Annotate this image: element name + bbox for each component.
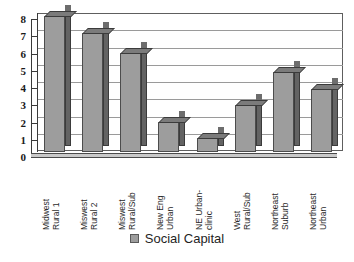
x-axis-category-label: Northeast Urban <box>309 158 354 230</box>
bar <box>82 27 103 152</box>
bar-front-face <box>82 33 103 152</box>
bar-front-face <box>235 105 256 152</box>
bar-top-bevel <box>235 100 268 106</box>
bar-front-face <box>158 122 179 152</box>
bar <box>235 99 256 152</box>
bar-top-bevel <box>311 84 344 90</box>
bar-top-bevel <box>273 67 306 73</box>
bar <box>273 66 294 152</box>
bar-side-face <box>141 47 147 146</box>
bar-front-face <box>197 138 218 152</box>
bar <box>158 116 179 152</box>
bar <box>197 132 218 152</box>
bar-side-face <box>103 27 109 146</box>
bar-top-face <box>179 111 185 117</box>
y-axis-tick-label: 8 <box>4 14 26 25</box>
legend-label: Social Capital <box>145 231 225 246</box>
y-axis-tick-label: 5 <box>4 66 26 77</box>
y-axis-tick-label: 7 <box>4 31 26 42</box>
bar <box>120 47 141 152</box>
bar-top-face <box>294 61 300 67</box>
bar-series-social-capital <box>31 13 343 157</box>
bar-front-face <box>120 53 141 152</box>
bar-side-face <box>256 99 262 146</box>
bar-front-face <box>44 16 65 152</box>
y-axis-tick-label: 4 <box>4 83 26 94</box>
chart-legend: Social Capital <box>0 231 354 246</box>
bar-chart: 012345678 Midwest Rural 1Miswest Rural 2… <box>0 0 354 262</box>
x-axis-labels: Midwest Rural 1Miswest Rural 2Miswest Ru… <box>31 158 343 230</box>
y-axis-tick-label: 3 <box>4 100 26 111</box>
y-axis-tick-label: 2 <box>4 118 26 129</box>
bar <box>44 10 65 152</box>
y-axis-tick-label: 0 <box>4 152 26 163</box>
bar-side-face <box>65 10 71 146</box>
bar-top-bevel <box>44 11 77 17</box>
y-axis-tick-label: 1 <box>4 135 26 146</box>
y-axis-tick-label: 6 <box>4 49 26 60</box>
plot-area <box>31 13 343 157</box>
legend-swatch <box>130 234 139 243</box>
bar-top-bevel <box>120 48 153 54</box>
bar-top-face <box>65 5 71 11</box>
bar-side-face <box>332 83 338 146</box>
bar <box>311 83 332 152</box>
bar-front-face <box>311 89 332 152</box>
bar-top-bevel <box>158 117 191 123</box>
bar-top-bevel <box>82 28 115 34</box>
bar-top-face <box>141 42 147 48</box>
bar-side-face <box>294 66 300 146</box>
bar-front-face <box>273 72 294 152</box>
bar-top-bevel <box>197 133 230 139</box>
